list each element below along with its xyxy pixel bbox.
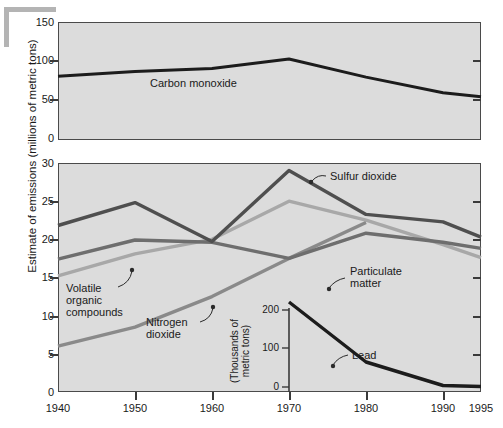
label-nitrogen-dioxide-line1: Nitrogen xyxy=(146,316,188,328)
line-lead xyxy=(289,302,481,387)
xtick-mark-1990 xyxy=(443,392,445,400)
label-particulate-matter: Particulate matter xyxy=(350,265,402,289)
xtick-1940: 1940 xyxy=(35,402,81,414)
line-sulfur-dioxide xyxy=(58,171,481,242)
arrowhead-voc xyxy=(130,268,134,272)
label-particulate-matter-line1: Particulate xyxy=(350,265,402,277)
label-particulate-matter-line2: matter xyxy=(350,277,381,289)
inset-axis-title-line1: (Thousands of xyxy=(229,319,240,383)
emissions-figure: Estimate of emissions (millions of metri… xyxy=(0,0,503,428)
xtick-mark-1950 xyxy=(135,392,137,400)
xtick-1980: 1980 xyxy=(343,402,389,414)
xtick-1960: 1960 xyxy=(189,402,235,414)
inset-axis-title: (Thousands of metric tons) xyxy=(229,301,251,401)
leader-nitrogen-dioxide xyxy=(200,308,213,322)
xtick-1995: 1995 xyxy=(458,402,503,414)
label-volatile-organic-compounds: Volatile organic compounds xyxy=(66,282,123,318)
label-nitrogen-dioxide: Nitrogen dioxide xyxy=(146,316,188,340)
xtick-mark-1960 xyxy=(212,392,214,400)
xtick-1970: 1970 xyxy=(266,402,312,414)
arrowhead-lead xyxy=(331,364,335,368)
leader-particulate-matter xyxy=(329,278,345,288)
label-sulfur-dioxide: Sulfur dioxide xyxy=(330,170,397,182)
inset-ytick-100: 100 xyxy=(249,342,279,353)
xtick-1950: 1950 xyxy=(112,402,158,414)
label-voc-line2: organic xyxy=(66,294,102,306)
leader-lead xyxy=(333,355,348,365)
label-voc-line3: compounds xyxy=(66,306,123,318)
arrowhead-nitrogen-dioxide xyxy=(211,305,215,309)
xtick-mark-1980 xyxy=(366,392,368,400)
leader-sulfur-dioxide xyxy=(312,176,326,181)
label-voc-line1: Volatile xyxy=(66,282,101,294)
xtick-mark-1970 xyxy=(289,392,291,400)
label-lead: Lead xyxy=(352,349,376,361)
arrowhead-sulfur-dioxide xyxy=(309,180,313,184)
inset-ytick-0: 0 xyxy=(249,381,279,392)
label-nitrogen-dioxide-line2: dioxide xyxy=(146,328,181,340)
inset-axis-title-line2: metric tons) xyxy=(240,325,251,377)
arrowhead-particulate-matter xyxy=(327,287,331,291)
inset-ytick-200: 200 xyxy=(249,304,279,315)
bottom-panel-lines xyxy=(0,0,503,428)
